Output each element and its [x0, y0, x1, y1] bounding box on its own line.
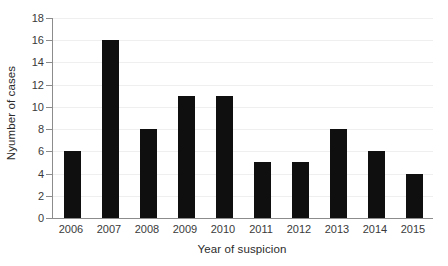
y-axis-tick-labels: 181614121086420 [18, 18, 44, 218]
x-axis-title: Year of suspicion [52, 243, 432, 255]
x-axis-tick-label: 2013 [318, 223, 356, 236]
bar [406, 174, 423, 218]
y-axis-tick-label: 10 [18, 101, 44, 112]
x-axis-tick-label: 2015 [394, 223, 432, 236]
x-axis-tick-label: 2010 [204, 223, 242, 236]
y-axis-tick-label: 6 [18, 146, 44, 157]
bars-layer [53, 18, 433, 218]
y-axis-tick-label: 12 [18, 79, 44, 90]
y-axis-tick-label: 8 [18, 124, 44, 135]
y-axis-tick-label: 0 [18, 213, 44, 224]
bar [330, 129, 347, 218]
x-axis-tick-label: 2014 [356, 223, 394, 236]
y-axis-title-text: Nyumber of cases [5, 66, 17, 160]
plot-area [52, 18, 433, 219]
y-axis-tick-label: 16 [18, 35, 44, 46]
bar [216, 96, 233, 218]
bar [292, 162, 309, 218]
x-axis-tick-label: 2006 [52, 223, 90, 236]
x-axis-tick-label: 2008 [128, 223, 166, 236]
x-axis-tick-label: 2012 [280, 223, 318, 236]
y-axis-tick-label: 14 [18, 57, 44, 68]
y-axis-tick-label: 18 [18, 13, 44, 24]
y-axis-tick-label: 4 [18, 168, 44, 179]
bar [368, 151, 385, 218]
bar [254, 162, 271, 218]
x-axis-tick-labels: 2006200720082009201020112012201320142015 [52, 223, 432, 239]
bar [178, 96, 195, 218]
x-axis-tick-label: 2007 [90, 223, 128, 236]
bar-chart: Nyumber of cases 181614121086420 2006200… [0, 0, 448, 266]
bar [102, 40, 119, 218]
bar [140, 129, 157, 218]
x-axis-tick-label: 2009 [166, 223, 204, 236]
bar [64, 151, 81, 218]
x-axis-tick-label: 2011 [242, 223, 280, 236]
y-axis-tick-label: 2 [18, 190, 44, 201]
